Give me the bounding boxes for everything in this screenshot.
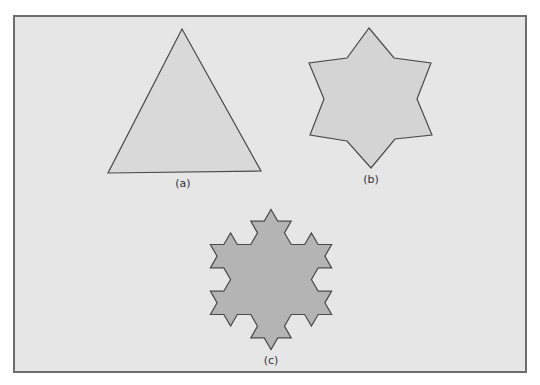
caption-a: (a) [175, 177, 190, 190]
koch-snowflake-figure: (a) (b) (c) [0, 0, 540, 385]
caption-c: (c) [264, 354, 279, 367]
caption-b: (b) [363, 173, 379, 186]
